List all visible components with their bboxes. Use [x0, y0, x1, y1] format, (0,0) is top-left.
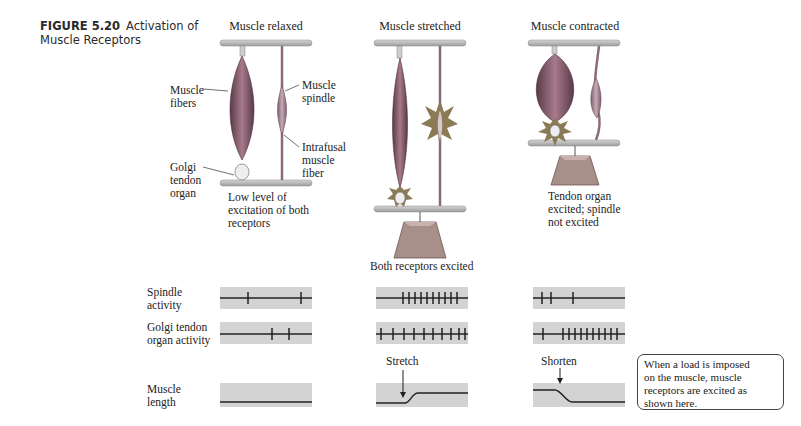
muscle-fibers-shape [230, 56, 254, 160]
trace-contracted-golgi [533, 322, 625, 344]
trace-contracted-length [533, 368, 625, 407]
label-golgi-tendon-organ: Golgi tendon organ [170, 161, 201, 200]
contracted-apparatus [528, 40, 620, 185]
bottom-bar [220, 180, 312, 186]
row-label-golgi-activity: Golgi tendon organ activity [147, 321, 210, 347]
annotation-stretch: Stretch [386, 355, 419, 368]
stretched-apparatus [374, 40, 466, 258]
row-label-muscle-length: Muscle length [147, 383, 181, 409]
trace-stretched-spindle [376, 287, 468, 309]
caption-stretched: Both receptors excited [370, 260, 473, 273]
panel-title-relaxed: Muscle relaxed [216, 20, 316, 33]
trace-relaxed-golgi [220, 322, 312, 344]
golgi-organ-shape [235, 164, 249, 180]
label-muscle-fibers: Muscle fibers [170, 84, 204, 110]
panel-title-contracted: Muscle contracted [520, 20, 630, 33]
relaxed-apparatus [203, 40, 312, 186]
row-label-spindle-activity: Spindle activity [147, 286, 182, 312]
trace-relaxed-spindle [220, 287, 312, 309]
trace-stretched-length [376, 370, 468, 407]
spindle-shape [278, 85, 287, 135]
panel-title-stretched: Muscle stretched [370, 20, 470, 33]
trace-stretched-golgi [376, 322, 468, 344]
annotation-shorten: Shorten [541, 355, 577, 368]
caption-relaxed: Low level of excitation of both receptor… [228, 191, 309, 230]
explanation-callout: When a load is imposed on the muscle, mu… [637, 354, 784, 410]
trace-relaxed-length [220, 383, 312, 407]
label-muscle-spindle: Muscle spindle [302, 79, 336, 105]
weight-icon-2 [551, 156, 599, 185]
label-intrafusal-fiber: Intrafusal muscle fiber [302, 141, 346, 180]
weight-icon [394, 222, 446, 258]
top-bar [220, 40, 312, 46]
caption-contracted: Tendon organ excited; spindle not excite… [548, 190, 621, 229]
trace-contracted-spindle [533, 287, 625, 309]
